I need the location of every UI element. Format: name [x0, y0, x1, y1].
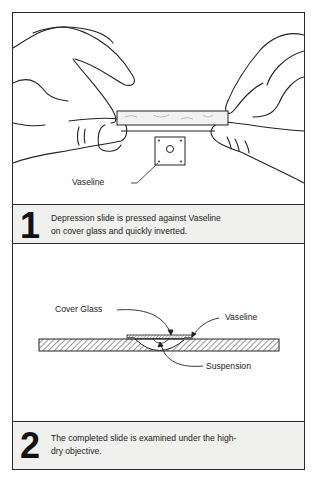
step-2-text-line-2: dry objective.: [51, 445, 296, 458]
vaseline-left: [127, 337, 135, 340]
vaseline-label-1: Vaseline: [72, 177, 104, 187]
cover-glass-label: Cover Glass: [55, 304, 102, 314]
cover-glass-leader: [117, 310, 171, 334]
step-2-text: The completed slide is examined under th…: [51, 432, 296, 457]
cover-glass-cross-section: [127, 335, 192, 339]
figure-frame: Vaseline 1 Depression slide is pressed a…: [12, 12, 305, 470]
vaseline-leader: [193, 318, 219, 336]
step-2-text-line-1: The completed slide is examined under th…: [51, 432, 296, 445]
step-1-text-line-2: on cover glass and quickly inverted.: [51, 225, 296, 238]
vaseline-leader-line: [131, 163, 158, 183]
left-hand-icon: [13, 27, 134, 163]
suspension-label: Suspension: [206, 361, 251, 371]
step-2-caption: 2 The completed slide is examined under …: [13, 421, 304, 469]
step-1-illustration: Vaseline: [13, 13, 304, 204]
step-1-text: Depression slide is pressed against Vase…: [51, 212, 296, 237]
step-1-text-line-1: Depression slide is pressed against Vase…: [51, 212, 296, 225]
step-2-illustration: Cover Glass Vaseline Suspension: [13, 244, 304, 421]
cover-glass-drawing: [155, 137, 185, 165]
slide-cross-section-diagram: [13, 244, 304, 421]
vaseline-right: [184, 337, 192, 340]
step-1-caption: 1 Depression slide is pressed against Va…: [13, 204, 304, 244]
right-hand-icon: [211, 34, 304, 183]
vaseline-label-2: Vaseline: [225, 312, 257, 322]
step-number-1: 1: [20, 208, 40, 244]
hands-holding-slide-drawing: [13, 13, 304, 204]
step-number-2: 2: [20, 428, 40, 464]
depression-slide-drawing: [117, 111, 228, 131]
